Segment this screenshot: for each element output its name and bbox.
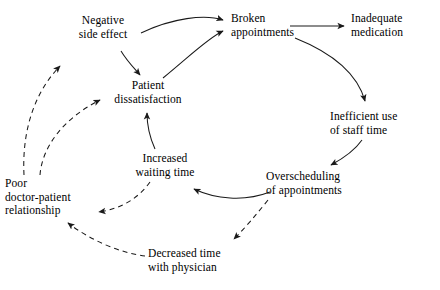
edge-broken-appointments-to-inefficient-staff-time [295,38,365,101]
node-decreased-time-with-physician[interactable]: Decreased time with physician [148,247,248,274]
edge-overscheduling-to-decreased-time [234,200,268,239]
node-inefficient-staff-time[interactable]: Inefficient use of staff time [330,110,420,137]
node-poor-doctor-patient-relationship[interactable]: Poor doctor-patient relationship [5,177,85,218]
edge-poor-relationship-to-patient-dissatisfaction [40,100,100,175]
edge-poor-relationship-to-negative-side-effect [24,66,60,175]
edge-increased-waiting-time-to-patient-dissatisfaction [147,113,155,149]
edge-negative-side-effect-to-patient-dissatisfaction [121,51,140,75]
node-broken-appointments[interactable]: Broken appointments [231,12,327,39]
edge-overscheduling-to-increased-waiting-time [194,189,270,198]
edge-increased-waiting-time-to-poor-relationship [99,182,150,212]
diagram-canvas: Negative side effect Broken appointments… [0,0,440,290]
node-patient-dissatisfaction[interactable]: Patient dissatisfaction [108,79,188,106]
node-increased-waiting-time[interactable]: Increased waiting time [127,152,203,179]
edge-patient-dissatisfaction-to-broken-appointments [163,31,223,78]
edge-decreased-time-to-poor-relationship [68,223,145,256]
edge-inefficient-staff-time-to-overscheduling [331,140,362,165]
node-negative-side-effect[interactable]: Negative side effect [66,14,140,41]
node-overscheduling[interactable]: Overscheduling of appointments [266,170,370,197]
node-inadequate-medication[interactable]: Inadequate medication [351,12,437,39]
edge-negative-side-effect-to-broken-appointments [141,17,223,33]
